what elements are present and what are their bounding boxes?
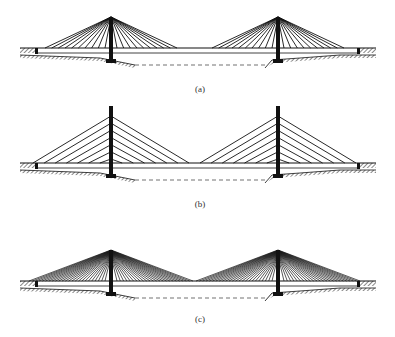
- bridge-panel-c: [20, 250, 376, 301]
- panel-label-a: (a): [180, 84, 220, 94]
- cable-stayed-bridge-figure: [0, 0, 395, 337]
- panel-label-c: (c): [180, 314, 220, 324]
- panel-label-b: (b): [180, 199, 220, 209]
- bridge-panel-a: [20, 17, 376, 68]
- bridge-panel-b: [20, 106, 376, 183]
